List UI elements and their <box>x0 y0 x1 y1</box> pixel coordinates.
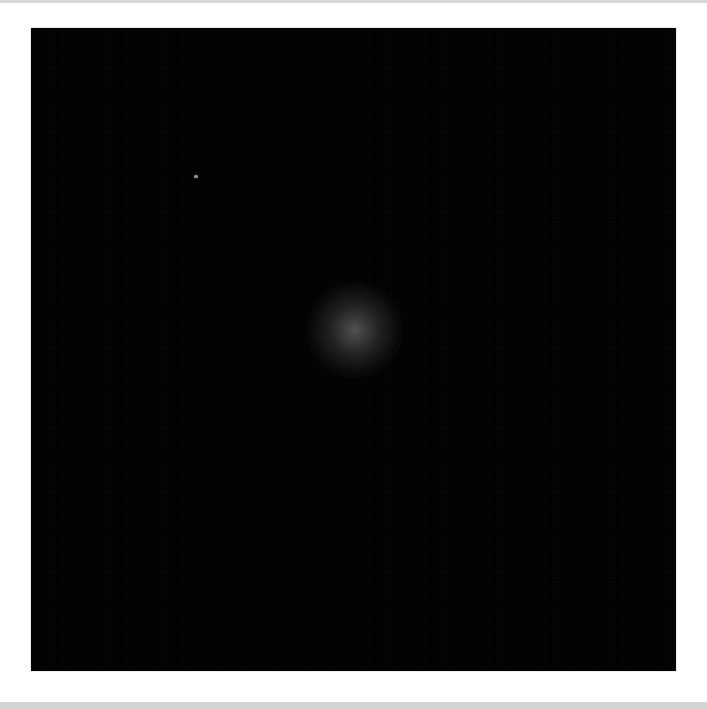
bottom-border-bar <box>0 702 707 709</box>
diffuse-glow <box>307 282 403 378</box>
bright-speck <box>194 175 198 178</box>
dark-field-image <box>31 28 676 671</box>
top-border-bar <box>0 0 707 3</box>
